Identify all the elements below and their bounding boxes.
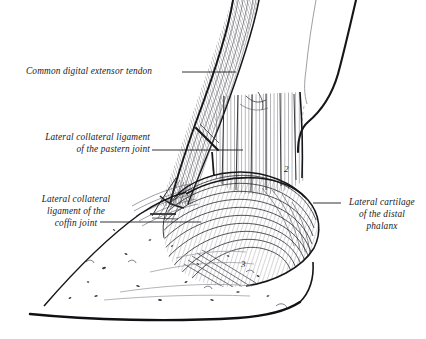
numeral-marker-2: 2: [284, 164, 289, 174]
label-line: phalanx: [344, 220, 420, 232]
label-lateral-collateral-ligament-coffin-joint: Lateral collateral ligament of the coffi…: [12, 193, 140, 230]
label-line: Lateral collateral ligament: [18, 131, 150, 143]
label-line: coffin joint: [12, 217, 140, 229]
proximal-limb-contour: [298, 0, 356, 152]
anatomy-figure: Common digital extensor tendon Lateral c…: [0, 0, 426, 339]
label-line: Lateral collateral: [12, 193, 140, 205]
label-line: of the distal: [344, 208, 420, 220]
numeral-marker-3: 3: [241, 259, 246, 269]
label-line: ligament of the: [12, 205, 140, 217]
label-lateral-cartilage-distal-phalanx: Lateral cartilage of the distal phalanx: [344, 196, 420, 233]
label-common-digital-extensor-tendon: Common digital extensor tendon: [26, 65, 152, 77]
label-line: Common digital extensor tendon: [26, 65, 152, 77]
label-lateral-collateral-ligament-pastern-joint: Lateral collateral ligament of the paste…: [18, 131, 150, 155]
label-line: of the pastern joint: [18, 143, 150, 155]
anatomy-illustration: [0, 0, 426, 339]
label-line: Lateral cartilage: [344, 196, 420, 208]
